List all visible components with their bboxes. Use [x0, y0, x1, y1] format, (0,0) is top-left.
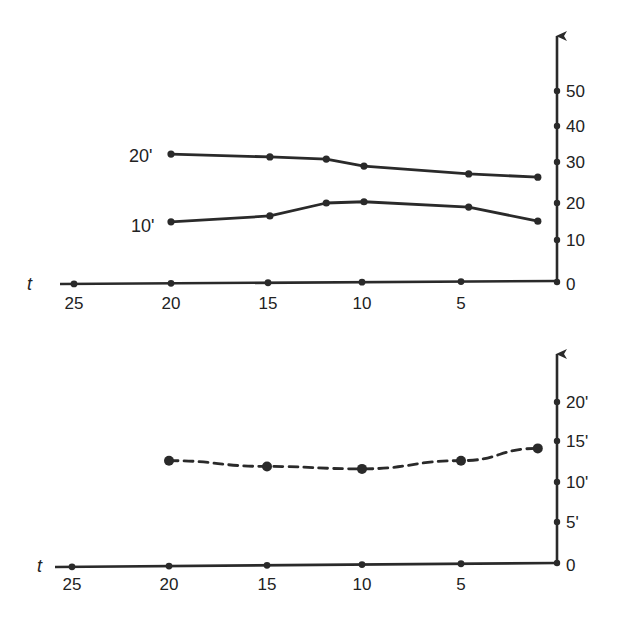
x-tick: 25	[65, 281, 84, 313]
data-point	[534, 218, 541, 225]
data-point	[357, 464, 367, 474]
x-tick-label: 5	[456, 294, 465, 313]
data-point	[266, 212, 273, 219]
data-point	[262, 461, 272, 471]
bottom-y-axis: 05'10'15'20'	[554, 354, 588, 575]
x-tick-label: 25	[63, 575, 82, 594]
y-tick-mark	[554, 237, 560, 243]
data-point	[360, 198, 367, 205]
y-tick-mark	[554, 399, 560, 405]
series-line	[169, 448, 538, 469]
x-tick-mark	[69, 563, 76, 570]
data-point	[323, 199, 330, 206]
y-tick-mark	[554, 88, 560, 94]
data-point	[534, 174, 541, 181]
figure: t 252015105 01020304050 20' 10' t 252015…	[0, 0, 622, 628]
series-20	[167, 150, 541, 180]
top-y-ticks: 01020304050	[554, 82, 585, 294]
x-tick-label: 15	[259, 294, 278, 313]
x-tick-label: 25	[65, 294, 84, 313]
y-tick: 40	[554, 117, 585, 136]
x-tick: 5	[456, 560, 465, 594]
x-tick-mark	[458, 278, 465, 285]
series-label-10: 10'	[131, 216, 154, 236]
y-tick: 20	[554, 194, 585, 213]
data-point	[360, 163, 367, 170]
top-x-axis-name: t	[27, 274, 33, 294]
y-tick-mark	[554, 479, 560, 485]
y-tick-label: 50	[566, 82, 585, 101]
y-tick-mark	[554, 279, 560, 285]
chart-canvas: t 252015105 01020304050 20' 10' t 252015…	[0, 0, 622, 628]
top-x-axis-line	[60, 281, 557, 284]
y-tick-mark	[554, 560, 560, 566]
x-tick-mark	[168, 280, 175, 287]
data-point	[323, 156, 330, 163]
data-point	[266, 153, 273, 160]
x-tick-mark	[166, 563, 173, 570]
y-tick-mark	[554, 123, 560, 129]
x-tick: 15	[259, 279, 278, 313]
y-tick-label: 5'	[566, 513, 579, 532]
top-x-axis: t 252015105	[27, 274, 557, 313]
bottom-x-axis-name: t	[37, 556, 43, 576]
top-series	[167, 150, 541, 225]
x-tick: 10	[353, 279, 372, 313]
x-tick-label: 20	[162, 294, 181, 313]
x-tick-label: 20	[160, 575, 179, 594]
y-tick-mark	[554, 519, 560, 525]
x-tick: 5	[456, 278, 465, 313]
bottom-chart: t 252015105 05'10'15'20'	[37, 354, 588, 594]
y-tick-label: 10	[566, 231, 585, 250]
x-tick-mark	[359, 561, 366, 568]
x-tick-label: 5	[456, 575, 465, 594]
data-point	[164, 456, 174, 466]
data-point	[465, 203, 472, 210]
y-tick-label: 20	[566, 194, 585, 213]
x-tick-label: 15	[258, 575, 277, 594]
y-tick-label: 15'	[566, 432, 588, 451]
x-tick-mark	[458, 560, 465, 567]
y-tick: 20'	[554, 393, 588, 412]
bottom-series	[164, 443, 543, 474]
series-dashed	[164, 443, 543, 474]
y-tick-mark	[554, 200, 560, 206]
bottom-y-ticks: 05'10'15'20'	[554, 393, 588, 575]
x-tick: 20	[162, 280, 181, 313]
x-tick-mark	[359, 279, 366, 286]
y-tick: 50	[554, 82, 585, 101]
y-tick-mark	[554, 438, 560, 444]
bottom-x-axis-line	[55, 563, 557, 567]
top-chart: t 252015105 01020304050 20' 10'	[27, 36, 585, 313]
series-line	[171, 154, 538, 177]
y-tick: 15'	[554, 432, 588, 451]
x-tick-label: 10	[353, 575, 372, 594]
y-tick: 10	[554, 231, 585, 250]
y-tick-mark	[554, 159, 560, 165]
x-tick-label: 10	[353, 294, 372, 313]
data-point	[533, 443, 543, 453]
y-tick-label: 30	[566, 153, 585, 172]
x-tick: 10	[353, 561, 372, 594]
y-tick-label: 0	[566, 556, 575, 575]
y-tick: 30	[554, 153, 585, 172]
series-10	[167, 198, 541, 225]
y-tick-label: 40	[566, 117, 585, 136]
data-point	[456, 456, 466, 466]
series-label-20: 20'	[129, 146, 152, 166]
top-y-axis: 01020304050	[554, 36, 585, 294]
data-point	[167, 150, 174, 157]
y-tick: 10'	[554, 473, 588, 492]
y-tick-label: 10'	[566, 473, 588, 492]
bottom-x-axis: t 252015105	[37, 556, 557, 594]
data-point	[465, 170, 472, 177]
y-tick-label: 0	[566, 275, 575, 294]
data-point	[167, 218, 174, 225]
x-tick: 15	[258, 562, 277, 594]
series-line	[171, 202, 538, 222]
y-tick-label: 20'	[566, 393, 588, 412]
x-tick-mark	[71, 281, 78, 288]
x-tick-mark	[265, 279, 272, 286]
x-tick-mark	[264, 562, 271, 569]
